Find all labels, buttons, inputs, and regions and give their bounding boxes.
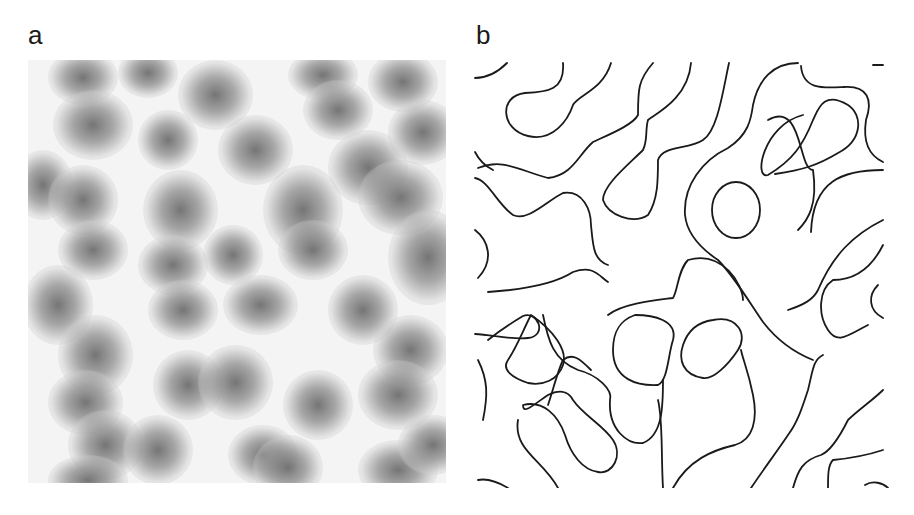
panel-label-a: a [28,22,42,48]
contour-plot [473,60,893,488]
panel-label-b: b [476,22,490,48]
contour-lines [473,60,893,488]
speckle-intensity-image [28,60,446,483]
